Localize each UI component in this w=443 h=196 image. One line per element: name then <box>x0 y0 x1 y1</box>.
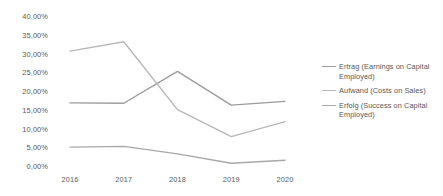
series-line <box>70 146 285 163</box>
legend-entry[interactable]: Erfolg (Success on Capital Employed) <box>322 101 443 120</box>
legend-entry[interactable]: Ertrag (Earnings on Capital Employed) <box>322 62 443 81</box>
series-line <box>70 71 285 105</box>
legend-line-icon <box>322 62 336 71</box>
series-line <box>70 42 285 137</box>
legend-line-icon <box>322 101 336 110</box>
line-chart: 40,00%35,00%30,00%25,00%20,00%15,00%10,0… <box>0 0 443 196</box>
legend-label: Erfolg (Success on Capital Employed) <box>339 101 443 120</box>
legend-label: Aufwand (Costs on Sales) <box>339 86 426 96</box>
chart-legend: Ertrag (Earnings on Capital Employed)Auf… <box>322 62 443 125</box>
legend-line-icon <box>322 86 336 95</box>
legend-label: Ertrag (Earnings on Capital Employed) <box>339 62 443 81</box>
legend-entry[interactable]: Aufwand (Costs on Sales) <box>322 86 443 96</box>
